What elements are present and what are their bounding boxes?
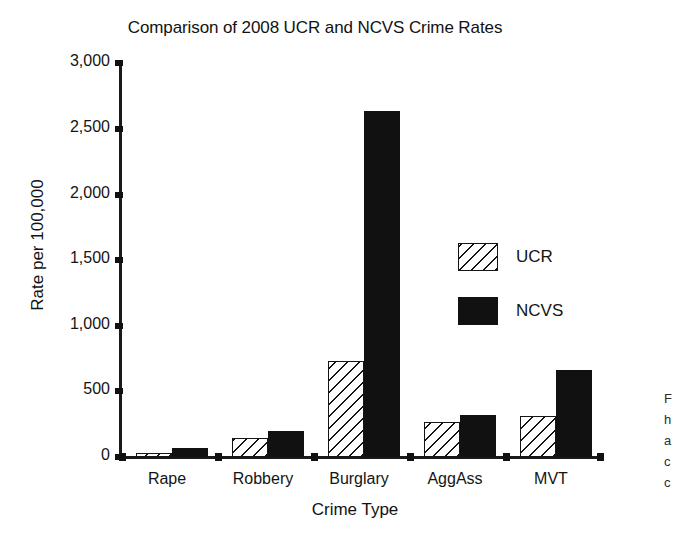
legend-swatch-ucr-icon [458,243,498,271]
edge-caption-line-3: a [664,430,676,451]
bar-ucr-robbery [232,438,268,457]
bar-ucr-rape [136,453,172,457]
y-tick-label-3000: 3,000 [36,52,110,70]
x-label-aggass: AggAss [407,470,503,488]
bar-ncvs-burglary [364,111,400,457]
bar-ncvs-mvt [556,370,592,457]
chart-title: Comparison of 2008 UCR and NCVS Crime Ra… [0,18,630,38]
y-tick-label-500: 500 [36,380,110,398]
legend-item-ucr: UCR [458,240,563,274]
chart-legend: UCR NCVS [458,240,563,348]
legend-label-ncvs: NCVS [516,301,563,321]
x-label-burglary: Burglary [311,470,407,488]
x-label-rape: Rape [119,470,215,488]
legend-swatch-ncvs-icon [458,297,498,325]
y-axis-title: Rate per 100,000 [28,115,48,375]
legend-label-ucr: UCR [516,247,553,267]
x-tick-5 [597,453,604,461]
edge-caption-line-1: F [664,388,676,409]
legend-item-ncvs: NCVS [458,294,563,328]
x-axis-title: Crime Type [120,500,590,520]
bar-ncvs-robbery [268,431,304,457]
y-tick-label-0: 0 [36,446,110,464]
x-label-mvt: MVT [503,470,599,488]
bar-ucr-aggass [424,422,460,457]
bar-ncvs-aggass [460,415,496,457]
edge-caption-line-2: h [664,409,676,430]
x-label-robbery: Robbery [215,470,311,488]
edge-caption-line-5: c [664,472,676,493]
chart-figure: Comparison of 2008 UCR and NCVS Crime Ra… [0,0,676,547]
bar-ncvs-rape [172,448,208,457]
edge-caption-fragment: F h a c c [664,388,676,493]
bar-ucr-burglary [328,361,364,457]
bar-ucr-mvt [520,416,556,457]
edge-caption-line-4: c [664,451,676,472]
